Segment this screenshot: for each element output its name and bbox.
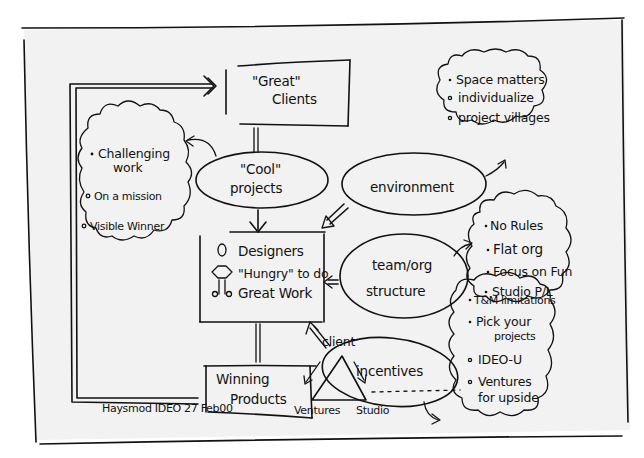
triangle-right-label: Studio: [356, 404, 390, 417]
team-item-1: No Rules: [490, 218, 543, 233]
team-org-line1: team/org: [372, 257, 432, 273]
environment-item-1: Space matters: [456, 72, 544, 87]
diagram-canvas: "Great" Clients "Cool" projects Challeng…: [0, 0, 644, 458]
team-item-2: Flat org: [493, 241, 543, 257]
designers-line3: Great Work: [238, 285, 312, 301]
incentives-item-2-line2: projects: [494, 330, 536, 343]
winning-products-line1: Winning: [216, 371, 269, 387]
challenge-item-2: On a mission: [94, 190, 162, 203]
environment-item-3: project villages: [458, 110, 550, 125]
incentives-item-1: T&M limitations: [473, 294, 556, 307]
great-clients-line1: "Great": [252, 73, 301, 89]
incentives-item-2-line1: Pick your: [476, 314, 532, 329]
cool-projects-line1: "Cool": [240, 161, 281, 177]
cool-projects-line2: projects: [230, 180, 282, 196]
signature-text: Haysmod IDEO 27 Feb00: [102, 402, 233, 415]
challenge-item-3: Visible Winner: [90, 220, 165, 233]
incentives-item-4-line1: Ventures: [478, 374, 531, 389]
triangle-left-label: Ventures: [294, 404, 341, 417]
challenge-item-1-line2: work: [113, 160, 143, 175]
environment-item-2: individualize: [458, 90, 534, 105]
challenge-item-1-line1: Challenging: [98, 146, 170, 161]
environment-label: environment: [370, 179, 454, 195]
triangle-top-label: client: [322, 334, 355, 349]
designers-line2: "Hungry" to do: [238, 266, 329, 281]
team-org-line2: structure: [366, 283, 425, 299]
incentives-item-3: IDEO-U: [478, 352, 522, 367]
incentives-item-4-line2: for upside: [478, 390, 539, 405]
designers-line1: Designers: [238, 243, 304, 259]
great-clients-line2: Clients: [272, 91, 317, 107]
winning-products-line2: Products: [230, 391, 287, 407]
